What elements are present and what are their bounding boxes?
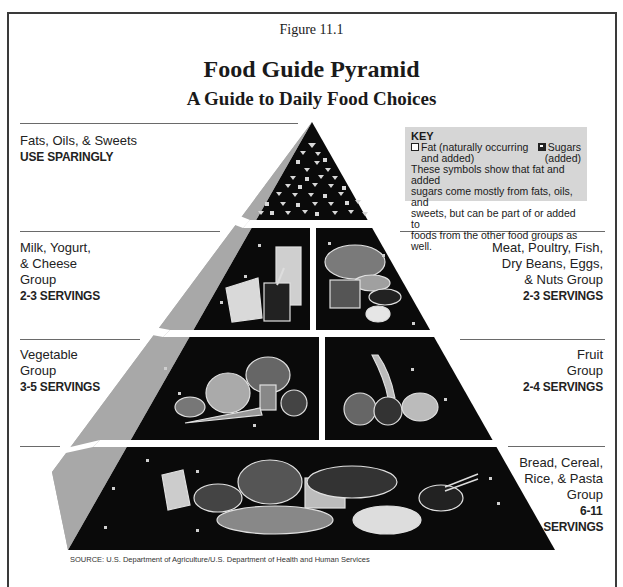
tomato (281, 390, 307, 416)
group-name-line: Fruit (516, 347, 603, 363)
rice-bowl (419, 485, 463, 511)
servings-unit: SERVINGS (543, 519, 603, 535)
yogurt-cup (264, 283, 290, 321)
label-rule-milk (20, 231, 220, 232)
key-description-line: sugars come mostly from fats, oils, and (411, 186, 581, 208)
key-description-line: foods from the other food groups as well… (411, 230, 581, 252)
label-rule-vegetable (20, 339, 140, 340)
pasta-plate (353, 506, 421, 534)
servings: 2-3 SERVINGS (523, 288, 603, 304)
group-name-line: Group (20, 272, 107, 288)
grapes (402, 393, 438, 421)
label-milk: Milk, Yogurt, & Cheese Group 2-3 SERVING… (20, 240, 107, 304)
source-note: SOURCE: U.S. Department of Agriculture/U… (70, 555, 370, 564)
key-box: KEY Fat (naturally occurring and added) … (405, 127, 587, 201)
fat-label-2: and added) (411, 152, 474, 164)
bread-loaf (238, 460, 302, 504)
apple (374, 397, 402, 425)
sugar-label-2: (added) (545, 152, 581, 164)
group-name-line: & Nuts Group (492, 272, 603, 288)
group-name-line: Group (519, 487, 603, 503)
servings: USE SPARINGLY (20, 149, 113, 165)
label-bread: Bread, Cereal, Rice, & Pasta Group 6-11 … (519, 455, 603, 535)
group-name-line: Group (20, 363, 107, 379)
fat-square-icon (411, 143, 419, 151)
label-rule-bread-left (20, 446, 60, 447)
group-name-line: Group (516, 363, 603, 379)
label-fats: Fats, Oils, & Sweets USE SPARINGLY (20, 133, 137, 165)
beans (330, 280, 360, 308)
group-name-line: Rice, & Pasta (519, 471, 603, 487)
key-sugar: Sugars (added) (538, 142, 581, 164)
potato (175, 397, 205, 417)
long-bread (307, 466, 397, 498)
broccoli-stem (260, 385, 276, 410)
group-name: Fats, Oils, & Sweets (20, 133, 137, 149)
label-fruit: Fruit Group 2-4 SERVINGS (516, 347, 603, 395)
label-vegetable: Vegetable Group 3-5 SERVINGS (20, 347, 107, 395)
group-name-line: Dry Beans, Eggs, (492, 256, 603, 272)
label-rule-fruit (460, 339, 605, 340)
key-description-line: These symbols show that fat and added (411, 164, 581, 186)
lettuce (206, 373, 250, 413)
servings: 2-3 SERVINGS (20, 288, 100, 304)
steak (369, 289, 401, 305)
label-rule-bread (508, 446, 605, 447)
cereal-bowl (194, 484, 242, 512)
key-fat: Fat (naturally occurring and added) (411, 142, 528, 164)
sugar-triangle-icon (538, 143, 546, 151)
key-symbols-row: Fat (naturally occurring and added) Suga… (411, 142, 581, 164)
servings: 3-5 SERVINGS (20, 379, 100, 395)
french-bread (217, 506, 333, 534)
chicken (325, 245, 385, 279)
group-name-line: Vegetable (20, 347, 107, 363)
egg (366, 306, 390, 322)
group-name-line: Bread, Cereal, (519, 455, 603, 471)
servings: 2-4 SERVINGS (523, 379, 603, 395)
servings-count: 6-11 (580, 503, 603, 519)
key-description-line: sweets, but can be part of or added to (411, 208, 581, 230)
label-rule-fats (20, 123, 298, 124)
group-name-line: Milk, Yogurt, (20, 240, 107, 256)
orange (344, 393, 376, 425)
group-name-line: & Cheese (20, 256, 107, 272)
